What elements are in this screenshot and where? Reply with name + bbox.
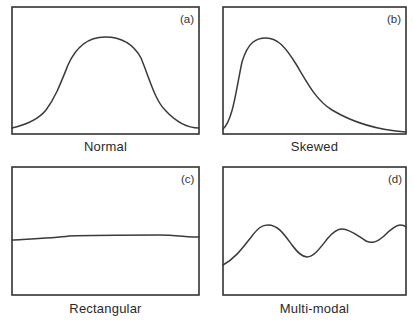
panel-tag: (b) [387, 13, 401, 25]
panel-tag: (d) [388, 173, 402, 185]
panel-frame [12, 167, 199, 295]
panel-tag: (c) [181, 173, 195, 185]
normal-curve [12, 37, 199, 128]
panel-multimodal: (d) [223, 167, 406, 295]
skewed-curve [223, 38, 406, 132]
panel-skewed: (b) [223, 7, 406, 134]
panel-frame [223, 167, 406, 295]
panel-frame [223, 7, 406, 134]
panel-rectangular: (c) [12, 167, 199, 295]
caption-multimodal: Multi-modal [223, 301, 406, 316]
rectangular-curve [12, 235, 199, 240]
caption-normal: Normal [12, 139, 199, 154]
multimodal-curve [223, 225, 406, 265]
panel-normal: (a) [12, 7, 199, 134]
panel-tag: (a) [180, 13, 194, 25]
distribution-shapes-figure: (a) (b) (c) (d) [0, 0, 414, 326]
caption-skewed: Skewed [223, 139, 406, 154]
caption-rectangular: Rectangular [12, 301, 199, 316]
